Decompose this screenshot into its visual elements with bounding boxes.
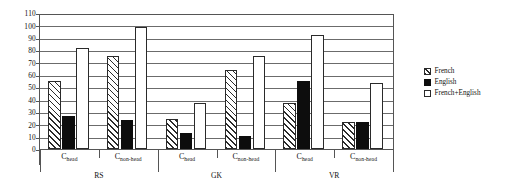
- legend-label: French: [435, 67, 455, 75]
- bar-group: [158, 15, 217, 149]
- legend-swatch-hatched: [424, 68, 431, 75]
- bar-french-c-head: [48, 81, 61, 149]
- category-axis: CheadCnon-headCheadCnon-headCheadCnon-he…: [0, 150, 507, 194]
- y-axis-tick-label: 80: [2, 47, 36, 54]
- group-label-gk: GK: [177, 171, 257, 180]
- bar-english-c-non-head: [356, 122, 369, 149]
- bar-group: [275, 15, 334, 149]
- group-separator-tick: [158, 150, 159, 172]
- category-separator-tick: [217, 150, 218, 158]
- bar-french-c-non-head: [225, 70, 238, 149]
- bar-english-c-non-head: [121, 120, 134, 149]
- chart-legend: FrenchEnglishFrench+English: [424, 66, 480, 99]
- y-axis-tick-label: 70: [2, 60, 36, 67]
- bar-english-c-head: [297, 81, 310, 149]
- legend-item-french-english: French+English: [424, 88, 480, 98]
- y-axis-tick-label: 90: [2, 35, 36, 42]
- category-separator-tick: [334, 150, 335, 158]
- y-axis-tick-label: 40: [2, 97, 36, 104]
- bar-english-c-non-head: [239, 136, 252, 149]
- bar-french-english-c-non-head: [253, 56, 266, 149]
- group-separator-tick: [275, 150, 276, 172]
- legend-label: English: [435, 78, 457, 86]
- bar-french-english-c-head: [311, 35, 324, 150]
- bar-english-c-head: [62, 116, 75, 149]
- category-separator-tick: [99, 150, 100, 158]
- bar-french-english-c-head: [76, 48, 89, 149]
- group-label-rs: RS: [59, 171, 139, 180]
- legend-swatch-solid-black: [424, 79, 431, 86]
- y-axis-tick-label: 110: [2, 10, 36, 17]
- y-axis-tick-label: 50: [2, 84, 36, 91]
- legend-swatch-white: [424, 90, 431, 97]
- legend-item-french: French: [424, 66, 480, 76]
- bar-french-english-c-non-head: [370, 83, 383, 149]
- bar-french-english-c-head: [194, 103, 207, 149]
- bar-french-c-non-head: [342, 122, 355, 149]
- legend-label: French+English: [435, 89, 481, 97]
- bar-group: [217, 15, 276, 149]
- y-axis-tick-label: 30: [2, 109, 36, 116]
- group-boundary-tick: [40, 150, 41, 172]
- bar-chart: 1101009080706050403020100 CheadCnon-head…: [0, 0, 507, 194]
- bar-french-c-non-head: [107, 56, 120, 149]
- bar-french-c-head: [283, 103, 296, 149]
- y-axis-tick-label: 60: [2, 72, 36, 79]
- y-axis-tick-label: 10: [2, 134, 36, 141]
- bar-french-c-head: [166, 119, 179, 149]
- legend-item-english: English: [424, 77, 480, 87]
- y-axis-tick-label: 20: [2, 122, 36, 129]
- bar-group: [99, 15, 158, 149]
- bar-group: [40, 15, 99, 149]
- category-label: Cnon-head: [324, 152, 404, 164]
- bar-french-english-c-non-head: [135, 27, 148, 149]
- bars-layer: [40, 15, 393, 149]
- group-label-vr: VR: [294, 171, 374, 180]
- group-boundary-tick: [393, 150, 394, 172]
- bar-group: [334, 15, 393, 149]
- y-axis-tick-label: 100: [2, 23, 36, 30]
- bar-english-c-head: [180, 133, 193, 149]
